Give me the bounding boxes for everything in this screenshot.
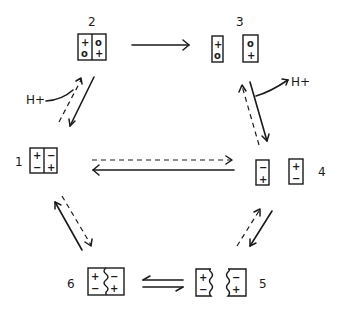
arrow-2-to-3 (132, 40, 189, 50)
state-2: 2 + o o + (78, 15, 106, 60)
state-1: 1 + − − + (15, 148, 57, 173)
state-4-cell: + (259, 174, 267, 185)
state-1-cell: − (47, 150, 55, 161)
state-4-cell: + (292, 161, 300, 172)
state-1-cell: + (47, 162, 55, 173)
arrow-4-to-1 (93, 165, 234, 175)
state-5-cell: − (199, 284, 207, 295)
state-4-cell: − (259, 162, 267, 173)
state-6-wavy-divider (104, 268, 108, 295)
proton-uptake: H+ (26, 90, 73, 107)
state-1-label: 1 (15, 155, 23, 169)
state-6: 6 + − − + (67, 268, 124, 295)
arrow-1-to-2-dashed (59, 78, 82, 122)
state-1-cell: − (33, 162, 41, 173)
state-6-cell: − (110, 271, 118, 282)
state-3-cell: o (214, 50, 221, 61)
state-6-cell: + (91, 271, 99, 282)
state-3: 3 + o o + (212, 15, 258, 62)
state-5-cell: + (232, 284, 240, 295)
state-2-cell: + (81, 37, 89, 48)
reaction-cycle-diagram: 2 + o o + 3 + o o + 1 + − − + − + + − 4 (0, 0, 343, 310)
state-1-cell: + (33, 150, 41, 161)
arrow-6-to-1 (55, 202, 82, 250)
state-4-label: 4 (318, 165, 326, 179)
state-2-cell: + (95, 48, 103, 59)
arrow-1-to-4-dashed (92, 156, 232, 164)
state-5-label: 5 (259, 277, 267, 291)
state-6-cell: − (91, 283, 99, 294)
state-6-label: 6 (67, 277, 75, 291)
state-2-label: 2 (88, 15, 96, 29)
state-2-cell: o (95, 37, 102, 48)
state-3-cell: + (247, 50, 255, 61)
state-4: − + + − 4 (256, 159, 326, 185)
state-3-cell: o (247, 38, 254, 49)
arrow-4-to-3-dashed (239, 85, 259, 145)
arrow-5-to-4-dashed (237, 209, 260, 246)
proton-in-label: H+ (26, 93, 45, 107)
arrow-3-to-4 (250, 82, 269, 141)
proton-release: H+ (256, 75, 310, 96)
state-5-cell: − (232, 272, 240, 283)
state-3-cell: + (214, 39, 222, 50)
state-4-cell: − (292, 173, 300, 184)
equilibrium-5-6 (143, 276, 183, 291)
proton-out-label: H+ (291, 75, 310, 89)
state-5: + − − + 5 (196, 269, 267, 296)
arrow-4-to-5 (250, 211, 272, 246)
state-2-cell: o (81, 48, 88, 59)
state-3-label: 3 (236, 15, 244, 29)
state-5-cell: + (199, 272, 207, 283)
state-6-cell: + (110, 283, 118, 294)
